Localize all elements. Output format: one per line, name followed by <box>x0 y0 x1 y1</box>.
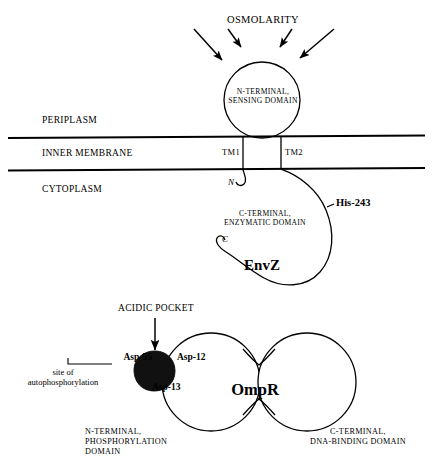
osmolarity-arrow-right <box>280 29 292 47</box>
diagram-vector-layer <box>0 0 433 475</box>
his-243-label: His-243 <box>336 197 370 209</box>
membrane-inner-leaflet-line <box>8 168 425 171</box>
envz-ompr-diagram: OSMOLARITY PERIPLASM INNER MEMBRANE CYTO… <box>0 0 433 475</box>
ompr-c-domain-label-line2: DNA-BINDING DOMAIN <box>310 437 406 446</box>
envz-n-terminus-label: N <box>228 177 234 187</box>
asp-12-label: Asp-12 <box>177 352 206 363</box>
cytoplasm-label: CYTOPLASM <box>42 184 102 195</box>
tm2-label: TM2 <box>285 148 303 158</box>
enzymatic-domain-label-line2: ENZYMATIC DOMAIN <box>224 219 306 228</box>
ompr-c-domain-label-line1: C-TERMINAL, <box>330 427 386 436</box>
sensing-domain-label-line2: SENSING DOMAIN <box>228 97 297 106</box>
autophosphorylation-label-line2: autophosphorylation <box>28 378 99 388</box>
acidic-pocket-label: ACIDIC POCKET <box>118 303 194 314</box>
envz-protein-label: EnvZ <box>244 257 280 274</box>
n-terminus-hook <box>236 170 246 186</box>
envz-c-terminus-label: C <box>222 234 228 244</box>
ompr-protein-label: OmpR <box>231 381 279 399</box>
transmembrane-segments <box>243 136 281 169</box>
ompr-n-domain-label-line3: DOMAIN <box>85 447 120 456</box>
tm1-label: TM1 <box>222 148 240 158</box>
osmolarity-arrow-left <box>228 29 241 47</box>
osmolarity-arrows <box>194 29 334 60</box>
osmolarity-label: OSMOLARITY <box>227 14 299 26</box>
his-243-tick <box>327 204 334 207</box>
osmolarity-arrow-far-left <box>194 29 222 60</box>
ompr-n-domain-label-line2: PHOSPHORYLATION <box>85 437 167 446</box>
membrane-outer-leaflet-line <box>8 136 425 139</box>
osmolarity-arrow-far-right <box>300 29 334 58</box>
inner-membrane-label: INNER MEMBRANE <box>42 148 133 159</box>
ompr-n-domain-label-line1: N-TERMINAL, <box>85 427 141 436</box>
asp-13-label: Asp-13 <box>152 382 181 393</box>
asp55-leader-line <box>68 358 112 364</box>
asp-55-label: Asp-55 <box>123 352 152 363</box>
periplasm-label: PERIPLASM <box>42 115 97 126</box>
